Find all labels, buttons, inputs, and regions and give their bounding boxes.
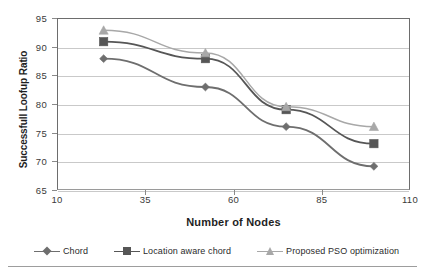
data-point-marker bbox=[370, 140, 378, 148]
chart-legend: ChordLocation aware chordProposed PSO op… bbox=[34, 243, 399, 259]
legend-item-2[interactable]: Proposed PSO optimization bbox=[257, 245, 399, 257]
series-square bbox=[99, 38, 378, 148]
x-tick-label: 60 bbox=[228, 194, 239, 205]
series-line bbox=[104, 42, 374, 144]
data-point-marker bbox=[99, 38, 107, 46]
legend-label: Proposed PSO optimization bbox=[286, 246, 399, 256]
bottom-divider bbox=[8, 266, 417, 267]
y-tick-label: 95 bbox=[36, 13, 47, 24]
y-tick-mark bbox=[52, 133, 57, 134]
y-tick-mark bbox=[52, 104, 57, 105]
x-axis-title: Number of Nodes bbox=[57, 216, 410, 228]
y-tick-label: 75 bbox=[36, 127, 47, 138]
x-tick-label: 85 bbox=[316, 194, 327, 205]
diamond-marker bbox=[34, 245, 60, 257]
x-axis-ticks: 10356085110 bbox=[0, 192, 425, 210]
series-layer bbox=[58, 19, 409, 189]
data-point-marker bbox=[282, 123, 290, 131]
square-marker bbox=[114, 245, 140, 257]
y-tick-mark bbox=[52, 161, 57, 162]
y-tick-mark bbox=[52, 47, 57, 48]
series-line bbox=[104, 30, 374, 126]
legend-label: Location aware chord bbox=[143, 246, 231, 256]
y-tick-label: 80 bbox=[36, 99, 47, 110]
x-tick-mark bbox=[322, 190, 323, 195]
y-tick-label: 90 bbox=[36, 41, 47, 52]
y-axis-title: Successfull Loofup Ratio bbox=[18, 35, 29, 185]
line-chart-figure: 65707580859095 Successfull Loofup Ratio … bbox=[0, 0, 425, 275]
x-tick-mark bbox=[234, 190, 235, 195]
y-tick-label: 85 bbox=[36, 70, 47, 81]
y-tick-label: 70 bbox=[36, 156, 47, 167]
legend-item-0[interactable]: Chord bbox=[34, 245, 88, 257]
y-tick-mark bbox=[52, 18, 57, 19]
series-triangle bbox=[99, 26, 378, 131]
y-tick-mark bbox=[52, 75, 57, 76]
data-point-marker bbox=[370, 162, 378, 170]
data-point-marker bbox=[100, 55, 108, 63]
legend-item-1[interactable]: Location aware chord bbox=[114, 245, 231, 257]
x-tick-label: 110 bbox=[402, 194, 418, 205]
x-tick-label: 10 bbox=[51, 194, 62, 205]
x-tick-mark bbox=[145, 190, 146, 195]
plot-area bbox=[57, 18, 410, 190]
data-point-marker bbox=[201, 83, 209, 91]
x-tick-label: 35 bbox=[140, 194, 151, 205]
triangle-marker bbox=[257, 245, 283, 257]
y-tick-mark bbox=[52, 190, 57, 191]
y-axis-ticks: 65707580859095 bbox=[0, 0, 57, 190]
legend-label: Chord bbox=[63, 246, 88, 256]
